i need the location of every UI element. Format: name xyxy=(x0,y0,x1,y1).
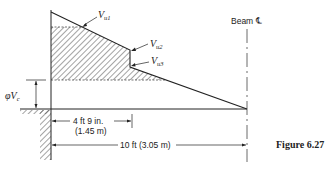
beam-centerline-label: Beam ℄ xyxy=(231,16,262,26)
critical-section-dim-label-2: (1.45 m) xyxy=(75,126,107,136)
vu2-label: Vu2 xyxy=(150,38,163,50)
arrowhead-icon xyxy=(242,144,246,147)
arrowhead-icon xyxy=(52,144,56,147)
phi-vc-label: φVc xyxy=(5,90,20,102)
figure-caption: Figure 6.27 xyxy=(276,139,324,150)
critical-section-dim-label-1: 4 ft 9 in. xyxy=(73,116,103,126)
arrowhead-icon xyxy=(35,81,38,85)
shear-diagram: φVc Vu1 Vu2 Vu3 Beam ℄ 4 ft 9 in. (1.45 … xyxy=(0,0,336,174)
arrowhead-icon xyxy=(35,104,38,108)
vu3-label: Vu3 xyxy=(151,55,164,67)
support-hatch-side xyxy=(40,110,51,160)
arrowhead-icon xyxy=(131,48,136,52)
vu1-label: Vu1 xyxy=(98,9,111,21)
vu3-leader xyxy=(134,62,149,65)
arrowhead-icon xyxy=(52,120,56,123)
arrowhead-icon xyxy=(131,63,136,67)
vu2-leader xyxy=(134,44,148,50)
hatched-shear-region xyxy=(51,27,165,80)
arrowhead-icon xyxy=(127,120,131,123)
span-dim-label: 10 ft (3.05 m) xyxy=(120,140,171,150)
